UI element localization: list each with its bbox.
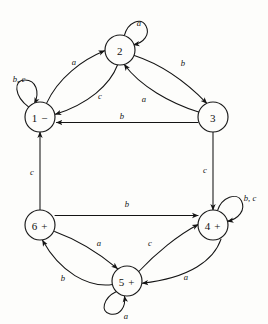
- edge-label-5-to-4: c: [148, 238, 152, 248]
- edge-label-4-to-5: a: [184, 272, 188, 282]
- node-6[interactable]: 6 +: [25, 210, 55, 240]
- node-2[interactable]: 2: [105, 35, 135, 65]
- node-6-label: 6 +: [32, 220, 48, 232]
- node-5[interactable]: 5 +: [112, 266, 142, 296]
- self-loop-label-2: a: [137, 18, 141, 28]
- node-5-label: 5 +: [119, 276, 135, 288]
- edges-layer: [40, 51, 221, 285]
- edge-label-2-to-1: c: [98, 91, 102, 101]
- diagram-canvas: 1 − 2 3 4 + 5 + 6 +: [0, 0, 268, 324]
- edge-label-2-to-3: b: [181, 58, 186, 68]
- edge-label-6-to-4: b: [125, 199, 130, 209]
- node-2-label: 2: [117, 45, 123, 57]
- edge-3-to-2: [124, 65, 198, 113]
- node-1-label: 1 −: [32, 112, 48, 124]
- node-1[interactable]: 1 −: [25, 102, 55, 132]
- edge-label-1-to-2: a: [72, 57, 76, 67]
- edge-5-to-6: [43, 240, 113, 285]
- self-loop-label-5: a: [124, 311, 128, 321]
- self-loop-label-4: b, c: [244, 193, 257, 203]
- edge-2-to-1: [55, 65, 117, 114]
- edge-labels-layer: a c b a b c c b a b c a: [30, 57, 207, 283]
- edge-label-3-to-1: b: [120, 111, 125, 121]
- edge-label-6-to-1: c: [30, 167, 34, 177]
- edge-4-to-5: [142, 239, 221, 283]
- self-loop-label-1: b, c: [13, 74, 26, 84]
- node-3-label: 3: [210, 112, 216, 124]
- node-4-label: 4 +: [205, 220, 221, 232]
- edge-label-5-to-6: b: [61, 273, 66, 283]
- edge-5-to-4: [139, 225, 198, 272]
- edge-6-to-5: [55, 232, 118, 269]
- edge-label-3-to-4: c: [203, 165, 207, 175]
- state-machine-diagram: 1 − 2 3 4 + 5 + 6 +: [0, 0, 268, 324]
- edge-label-6-to-5: a: [97, 238, 101, 248]
- nodes-layer: 1 − 2 3 4 + 5 + 6 +: [25, 35, 228, 296]
- node-3[interactable]: 3: [198, 102, 228, 132]
- edge-label-3-to-2: a: [142, 94, 146, 104]
- node-4[interactable]: 4 +: [198, 210, 228, 240]
